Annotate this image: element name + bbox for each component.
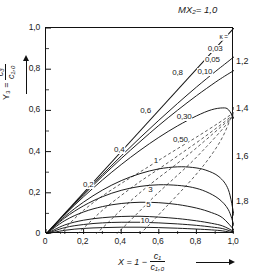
kappa-curve-label: 10 bbox=[140, 217, 150, 225]
y-tick-label: 0,4 bbox=[8, 147, 40, 156]
y-tick-label: 0,6 bbox=[8, 105, 40, 114]
kappa-curve-label: 0,10 bbox=[197, 68, 213, 76]
kappa-legend-label: κ = bbox=[219, 34, 228, 41]
x-axis-title-numerator: c₁ bbox=[150, 251, 166, 262]
selectivity-diagram: MX₂= 1,0 1,21,41,61,8 Y₃ = c₃ c₁,₀ 00,20… bbox=[0, 0, 273, 280]
y-tick-label: 0,2 bbox=[8, 188, 40, 197]
right-mx2-label: 1,2 bbox=[236, 56, 249, 66]
kappa-curve-label: 0,30 bbox=[176, 113, 192, 121]
kappa-curve-label: 5 bbox=[146, 201, 151, 209]
y-tick-label: 0,8 bbox=[8, 64, 40, 73]
kappa-curve-label: 0,03 bbox=[207, 45, 223, 53]
y-tick-label: 1,0 bbox=[8, 23, 40, 32]
kappa-curve-label: 0,05 bbox=[204, 56, 220, 64]
kappa-curve-label: 1 bbox=[153, 157, 158, 165]
kappa-curve-0-03 bbox=[46, 57, 234, 234]
mx2-contour-label: 0,4 bbox=[114, 146, 126, 154]
mx2-contour-label: 0,6 bbox=[140, 107, 152, 115]
x-axis-title-denominator: c₁,₀ bbox=[150, 262, 166, 272]
x-axis-title-prefix: X = 1 − bbox=[118, 257, 147, 267]
y-axis-title-prefix: Y₃ = bbox=[1, 83, 11, 100]
right-mx2-label: 1,6 bbox=[236, 151, 249, 161]
y-axis-title: Y₃ = c₃ c₁,₀ bbox=[0, 0, 18, 100]
mx2-contour-label: 0,8 bbox=[172, 69, 184, 77]
x-tick-label: 0 bbox=[31, 237, 59, 246]
plot-area: 0,030,050,100,300,50135100,20,40,60,8κ = bbox=[45, 27, 233, 233]
x-tick-label: 0,2 bbox=[69, 237, 97, 246]
kappa-curve-label: 3 bbox=[148, 186, 153, 194]
contour-line-2 bbox=[96, 115, 234, 234]
right-mx2-label: 1,4 bbox=[236, 103, 249, 113]
right-mx2-label: 1,8 bbox=[236, 196, 249, 206]
top-right-mx2-label: MX₂= 1,0 bbox=[178, 4, 217, 15]
x-tick-label: 0,4 bbox=[106, 237, 134, 246]
x-axis-title-fraction: c₁ c₁,₀ bbox=[150, 251, 166, 273]
x-tick-label: 0,8 bbox=[181, 237, 209, 246]
kappa-curve-label: 0,50 bbox=[173, 136, 189, 144]
x-axis-arrow bbox=[196, 262, 230, 263]
x-tick-label: 1,0 bbox=[219, 237, 247, 246]
x-tick-label: 0,6 bbox=[144, 237, 172, 246]
x-axis-title: X = 1 − c₁ c₁,₀ bbox=[118, 252, 165, 274]
mx2-contour-label: 0,2 bbox=[83, 181, 95, 189]
